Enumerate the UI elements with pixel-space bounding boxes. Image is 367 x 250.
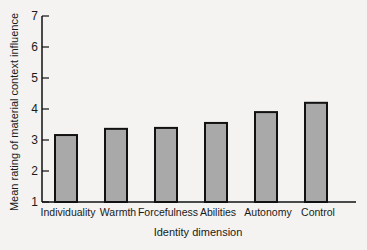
bar-warmth <box>105 129 127 202</box>
y-tick-label: 2 <box>31 164 38 178</box>
y-tick-label: 7 <box>31 9 38 23</box>
x-category-label: Warmth <box>100 206 137 218</box>
x-category-label: Autonomy <box>244 206 292 218</box>
bar-autonomy <box>255 112 277 202</box>
bar-chart: 1234567IndividualityWarmthForcefulnessAb… <box>0 0 367 250</box>
y-axis-title: Mean rating of material context influenc… <box>8 13 20 211</box>
y-tick-label: 3 <box>31 133 38 147</box>
x-category-label: Control <box>301 206 335 218</box>
bar-control <box>305 103 327 202</box>
bar-individuality <box>55 135 77 202</box>
y-tick-label: 5 <box>31 71 38 85</box>
y-tick-label: 6 <box>31 40 38 54</box>
bar-abilities <box>205 123 227 202</box>
bar-forcefulness <box>155 128 177 202</box>
y-tick-label: 1 <box>31 195 38 209</box>
x-category-label: Forcefulness <box>138 206 198 218</box>
x-category-label: Abilities <box>200 206 236 218</box>
x-category-label: Individuality <box>41 206 97 218</box>
x-axis-title: Identity dimension <box>154 226 243 238</box>
y-tick-label: 4 <box>31 102 38 116</box>
